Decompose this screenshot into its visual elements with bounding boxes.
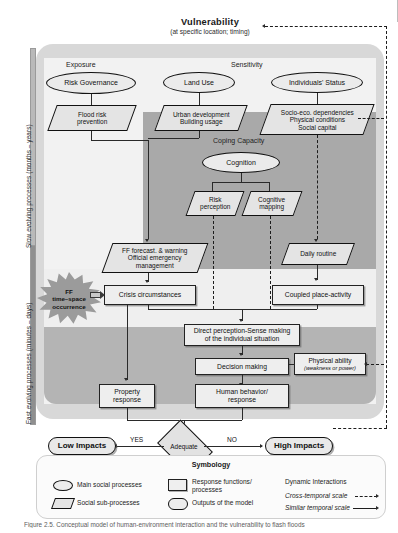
exposure-label: Exposure <box>66 61 96 68</box>
feedback-top-dash <box>265 26 387 27</box>
edge-prevention-down <box>91 131 92 140</box>
title-sub: (at specific location; timing) <box>120 28 300 35</box>
legend-rectangle-icon <box>168 479 187 491</box>
node-coupled-place-activity-label: Coupled place-activity <box>285 291 352 299</box>
node-daily-routine-label: Daily routine <box>300 250 336 257</box>
legend-cross-temporal-line <box>355 496 377 497</box>
node-risk-perception[interactable]: Risk perception <box>185 191 244 216</box>
edge-cognition-to-risk <box>212 182 213 191</box>
legend-item-main-processes: Main social processes <box>77 481 142 489</box>
node-daily-routine[interactable]: Daily routine <box>281 243 355 265</box>
node-socio-eco-label: Socio-eco. dependencies Physical conditi… <box>281 109 354 131</box>
crisis-bus-top <box>148 309 317 310</box>
arrow-high-impacts <box>260 444 263 448</box>
node-physical-ability[interactable]: Physical ability (weakness or power) <box>294 353 366 375</box>
legend-similar-temporal-line <box>353 508 377 509</box>
edge-cognition-down <box>241 173 242 182</box>
label-no: NO <box>227 436 237 443</box>
node-risk-perception-label: Risk perception <box>200 196 230 211</box>
diagram-canvas: Slow evolving processes (months – years)… <box>0 0 398 533</box>
node-flood-risk-prevention[interactable]: Flood risk prevention <box>47 105 136 131</box>
legend-item-response-functions: Response functions/ processes <box>192 478 252 493</box>
node-individuals-status-label: Individuals' Status <box>289 79 345 87</box>
physical-ability-dash-in <box>366 364 384 365</box>
feedback-right-dash <box>386 26 387 428</box>
coupled-bus-right <box>317 305 318 309</box>
legend-interactions-title: Dynamic Interactions <box>285 478 347 486</box>
legend-item-sub-processes: Social sub-processes <box>77 499 140 507</box>
node-human-behavior[interactable]: Human behavior/ response <box>195 384 289 408</box>
edge-cognition-split <box>212 182 270 183</box>
edge-crisis-to-property <box>127 305 128 380</box>
node-socio-eco[interactable]: Socio-eco. dependencies Physical conditi… <box>259 104 374 135</box>
node-urban-development-label: Urban development Building usage <box>173 111 230 126</box>
fast-processes-label: Fast evolving processes (minutes – days) <box>25 302 32 424</box>
node-high-impacts-label: High Impacts <box>274 442 324 451</box>
legend-similar-temporal: Similar temporal scale <box>285 504 350 512</box>
edge-individuals-to-socio <box>317 93 318 104</box>
feedback-arrowhead <box>262 24 265 28</box>
node-physical-ability-sub: (weakness or power) <box>304 365 356 371</box>
arrow-to-decision-making <box>239 353 243 356</box>
edge-physical-to-decision <box>289 364 295 365</box>
arrow-to-direct-perception <box>239 319 243 322</box>
legend-similar-temporal-arrow <box>376 506 379 510</box>
ff-occurrence-label: FF time–space occurrence <box>52 288 86 309</box>
node-land-use[interactable]: Land Use <box>163 72 235 93</box>
node-decision-making[interactable]: Decision making <box>195 358 289 375</box>
label-yes: YES <box>130 436 143 443</box>
edge-adequate-yes <box>116 446 164 447</box>
node-direct-perception-label: Direct perception-Sense making of the in… <box>194 327 291 342</box>
node-crisis-circumstances[interactable]: Crisis circumstances <box>104 285 196 305</box>
socio-dash-right <box>358 118 384 119</box>
node-human-behavior-label: Human behavior/ response <box>216 388 268 403</box>
node-physical-ability-label: Physical ability <box>308 357 351 364</box>
edge-prevention-right <box>91 140 149 141</box>
crisis-bus-left <box>148 305 149 309</box>
arrow-physical-ability-in <box>364 362 367 366</box>
node-flood-risk-prevention-label: Flood risk prevention <box>77 111 107 126</box>
node-land-use-label: Land Use <box>184 79 214 87</box>
property-down <box>127 408 128 420</box>
arrow-to-property-response <box>124 378 128 381</box>
behavior-down <box>242 408 243 420</box>
symbology-title: Symbology <box>37 460 385 469</box>
socio-dash-down <box>317 135 318 239</box>
symbology-legend: Symbology Main social processes Social s… <box>36 455 386 519</box>
legend-cross-temporal-arrow <box>376 494 379 498</box>
node-individuals-status[interactable]: Individuals' Status <box>271 72 363 93</box>
node-direct-perception[interactable]: Direct perception-Sense making of the in… <box>184 324 300 346</box>
edge-cognition-to-mapping <box>269 182 270 191</box>
legend-ellipse-icon <box>53 480 73 491</box>
node-high-impacts[interactable]: High Impacts <box>265 437 333 455</box>
node-risk-governance-label: Risk Governance <box>64 79 118 87</box>
node-coupled-place-activity[interactable]: Coupled place-activity <box>272 285 364 305</box>
edge-landuse-to-urban <box>199 93 200 105</box>
ff-occurrence-arrow <box>90 291 105 299</box>
arrow-to-coupled <box>314 278 318 281</box>
cognitive-mapping-dash <box>270 216 271 309</box>
node-crisis-circumstances-label: Crisis circumstances <box>119 291 181 299</box>
legend-rounded-icon <box>168 498 188 510</box>
node-cognitive-mapping-label: Cognitive mapping <box>258 196 285 211</box>
node-ff-forecast-label: FF forecast. & warning Official emergenc… <box>122 247 187 269</box>
edge-urban-down <box>199 131 200 138</box>
node-property-response[interactable]: Property response <box>99 384 155 408</box>
node-low-impacts[interactable]: Low Impacts <box>48 437 116 455</box>
node-urban-development[interactable]: Urban development Building usage <box>154 105 247 131</box>
node-ff-forecast[interactable]: FF forecast. & warning Official emergenc… <box>102 243 209 273</box>
node-cognitive-mapping[interactable]: Cognitive mapping <box>241 191 302 216</box>
arrow-to-ff-forecast <box>145 239 149 242</box>
node-cognition-label: Cognition <box>226 159 256 167</box>
sensitivity-label: Sensitivity <box>231 61 263 68</box>
arrow-to-crisis <box>145 280 149 283</box>
edge-governance-to-prevention <box>91 94 92 105</box>
arrow-to-daily-routine <box>314 239 318 242</box>
node-risk-governance[interactable]: Risk Governance <box>46 72 136 94</box>
node-decision-making-label: Decision making <box>217 363 267 371</box>
legend-parallelogram-icon <box>51 498 75 509</box>
edge-adequate-no <box>204 446 262 447</box>
node-cognition[interactable]: Cognition <box>202 152 280 173</box>
node-low-impacts-label: Low Impacts <box>58 442 106 451</box>
feedback-bottom-dash <box>333 428 387 429</box>
